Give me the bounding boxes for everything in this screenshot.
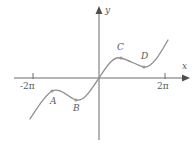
y-axis-arrow-icon <box>96 6 103 14</box>
x-tick-label-2pi: 2π <box>157 82 169 91</box>
point-label-d: D <box>141 52 148 61</box>
point-label-c: C <box>117 43 124 52</box>
x-axis-arrow-icon <box>182 75 190 82</box>
point-marker-b <box>74 98 77 101</box>
x-tick-label-neg-2pi: -2π <box>20 82 35 91</box>
point-marker-c <box>119 56 122 59</box>
point-marker-a <box>50 89 53 92</box>
point-label-a: A <box>50 97 57 106</box>
point-marker-d <box>142 65 145 68</box>
graph-canvas <box>0 0 196 147</box>
point-label-b: B <box>73 104 80 113</box>
graph-figure: y x -2π 2π A B C D <box>0 0 196 147</box>
x-axis-label: x <box>182 62 187 71</box>
y-axis-label: y <box>105 6 110 15</box>
